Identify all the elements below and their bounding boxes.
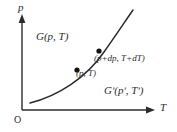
lower-point-label: (p, T) bbox=[76, 69, 96, 78]
t-axis-arrowhead bbox=[146, 107, 155, 114]
phase-1-label: G(p, T) bbox=[36, 31, 68, 42]
p-axis-arrowhead bbox=[19, 14, 26, 23]
upper-point-label: (p+dp, T+dT) bbox=[94, 54, 145, 63]
origin-label: O bbox=[14, 115, 21, 125]
phase-2-label: Gʹ(pʹ, Tʹ) bbox=[104, 85, 143, 96]
diagram-canvas bbox=[0, 0, 177, 132]
phase-diagram-figure: p T O G(p, T) Gʹ(pʹ, Tʹ) (p, T) (p+dp, T… bbox=[0, 0, 177, 132]
t-axis-label: T bbox=[160, 102, 166, 113]
p-axis-label: p bbox=[18, 2, 24, 13]
